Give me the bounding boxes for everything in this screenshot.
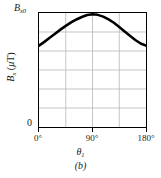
x-tick-mark-0 — [38, 128, 39, 132]
y-axis-max-label: Bx0 — [14, 2, 26, 16]
figure-panel-b: Bx0 0 Bx (μT) 0° 90° 180° θ1 (b) — [0, 0, 161, 178]
x-axis-title: θ1 — [0, 146, 161, 160]
y-axis-title-base: B — [5, 76, 16, 82]
y-axis-title: Bx (μT) — [5, 34, 19, 100]
x-tick-mark-180 — [146, 128, 147, 132]
y-axis-title-units: (μT) — [5, 52, 16, 72]
curve-path — [39, 14, 146, 45]
y-axis-max-label-subscript: x0 — [20, 7, 26, 14]
plot-area — [38, 12, 147, 128]
y-axis-title-subscript: x — [10, 73, 17, 76]
x-axis-title-subscript: 1 — [81, 151, 84, 158]
x-tick-label-0: 0° — [28, 133, 48, 143]
y-axis-zero-label: 0 — [27, 117, 32, 128]
x-tick-label-180: 180° — [132, 133, 160, 143]
x-tick-label-90: 90° — [80, 133, 104, 143]
figure-caption: (b) — [0, 160, 161, 171]
x-tick-mark-90 — [92, 128, 93, 132]
data-curve — [39, 13, 146, 127]
